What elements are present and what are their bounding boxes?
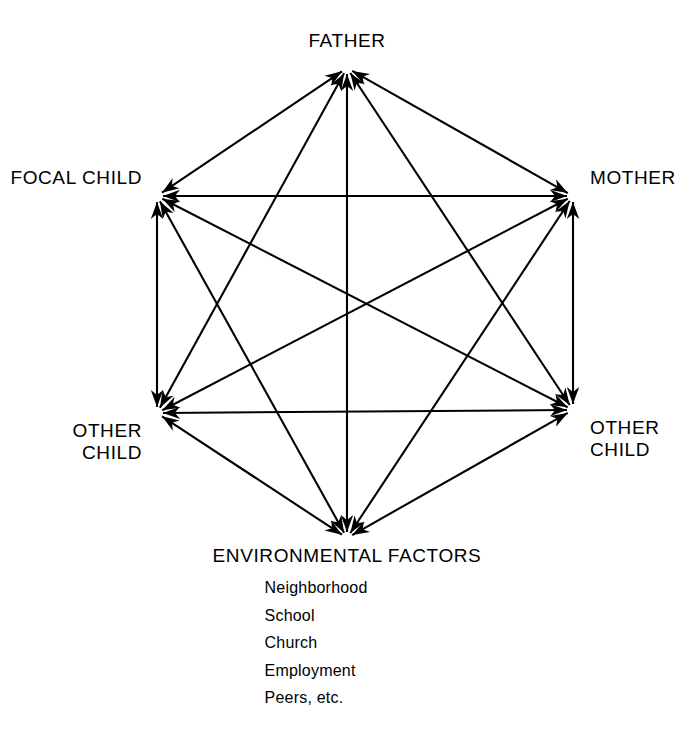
node-other-child-left-line1: OTHER — [73, 420, 143, 442]
node-other-child-left-line2: CHILD — [73, 442, 143, 464]
node-mother-label: MOTHER — [590, 167, 676, 188]
edge-father-to-mother — [352, 71, 568, 193]
node-environmental-factors: ENVIRONMENTAL FACTORS NeighborhoodSchool… — [213, 545, 482, 712]
edge-mother-to-environmental-factors — [350, 201, 569, 533]
node-father: FATHER — [308, 30, 385, 52]
node-other-child-right-line1: OTHER — [590, 417, 660, 439]
environmental-factor-item: School — [265, 602, 482, 630]
node-father-label: FATHER — [308, 30, 385, 51]
edge-father-to-other-child-left — [160, 73, 344, 407]
edge-other-child-left-to-other-child-right — [163, 410, 567, 413]
arrowhead-father-to-focal-child — [162, 178, 180, 193]
node-other-child-right-line2: CHILD — [590, 439, 660, 461]
environmental-factor-item: Neighborhood — [265, 574, 482, 602]
node-focal-child: FOCAL CHILD — [10, 167, 142, 189]
environmental-factor-item: Peers, etc. — [265, 684, 482, 712]
environmental-factor-item: Employment — [265, 657, 482, 685]
node-other-child-right: OTHER CHILD — [590, 417, 660, 462]
node-mother: MOTHER — [590, 167, 676, 189]
environmental-factors-list: NeighborhoodSchoolChurchEmploymentPeers,… — [213, 574, 482, 712]
node-other-child-left: OTHER CHILD — [73, 420, 143, 465]
node-environmental-factors-label: ENVIRONMENTAL FACTORS — [213, 545, 482, 567]
node-focal-child-label: FOCAL CHILD — [10, 167, 142, 188]
environmental-factor-item: Church — [265, 629, 482, 657]
edge-focal-child-to-environmental-factors — [160, 201, 344, 533]
arrowhead-environmental-factors-to-other-child-left — [162, 416, 180, 431]
edge-father-to-other-child-right — [350, 73, 569, 405]
edge-other-child-right-to-environmental-factors — [352, 413, 568, 535]
family-system-diagram: FATHER FOCAL CHILD MOTHER OTHER CHILD OT… — [0, 0, 694, 753]
edge-father-to-focal-child — [162, 71, 342, 192]
edge-other-child-left-to-environmental-factors — [162, 416, 342, 534]
